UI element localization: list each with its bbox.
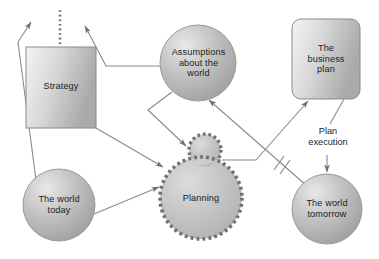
edge-strategy-to-planning [96, 128, 163, 167]
node-world-tomorrow[interactable] [292, 174, 362, 244]
node-world-today[interactable] [23, 169, 95, 241]
node-strategy[interactable] [26, 47, 96, 128]
node-assumptions[interactable] [160, 25, 236, 101]
edge-world-today-to-planning [94, 187, 159, 214]
diagram-canvas: Strategy Assumptions about the world The… [0, 0, 379, 259]
node-planning[interactable] [160, 134, 242, 239]
edge-assumptions-to-planning [148, 92, 186, 146]
node-business-plan[interactable] [292, 19, 360, 99]
edge-label-plan-execution: Plan execution [292, 126, 364, 147]
